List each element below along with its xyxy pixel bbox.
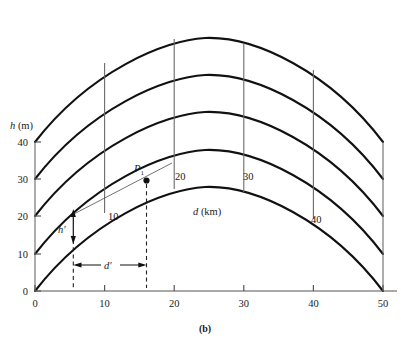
x-axis-title: d (km): [193, 206, 222, 218]
x-tick-label-50: 50: [378, 298, 389, 309]
inline-gridline-label-30: 30: [243, 171, 254, 182]
inline-gridline-label-40: 40: [311, 214, 322, 225]
x-ticks-group: [35, 285, 383, 291]
y-tick-label-40: 40: [18, 137, 29, 148]
y-tick-label-30: 30: [18, 174, 29, 185]
curves-group: [35, 38, 383, 291]
h-prime-arrowhead-down: [71, 236, 76, 244]
d-prime-label: d′: [104, 260, 112, 271]
x-tick-label-20: 20: [169, 298, 180, 309]
x-tick-label-0: 0: [32, 298, 37, 309]
point-P1-label-subscript: 1: [140, 169, 144, 177]
x-tick-label-10: 10: [99, 298, 110, 309]
y-tick-label-10: 10: [18, 249, 29, 260]
y-axis-title-unit: (m): [18, 120, 34, 132]
figure-caption: (b): [199, 323, 211, 335]
x-tick-label-40: 40: [308, 298, 319, 309]
x-tick-label-30: 30: [239, 298, 250, 309]
point-P1-label: P1: [133, 163, 144, 177]
x-tick-labels-group: 0 10 20 30 40 50: [32, 298, 388, 309]
figure-container: 0 10 20 30 40 50 0 10 20 30 40 h (m) d (…: [0, 0, 401, 341]
h-prime-label: h′: [58, 224, 66, 235]
y-axis-title: h (m): [10, 120, 34, 132]
y-tick-label-0: 0: [23, 286, 28, 297]
x-axis-title-unit: (km): [201, 206, 222, 218]
inline-gridline-label-20: 20: [175, 171, 186, 182]
gridlines-group: [35, 39, 383, 291]
y-ticks-group: [35, 142, 41, 291]
inline-gridline-label-10: 10: [108, 211, 119, 222]
d-prime-arrowhead-right: [138, 262, 146, 267]
secant-helper-line: [72, 163, 172, 215]
d-prime-arrowhead-left: [73, 262, 81, 267]
point-P1-marker: [143, 177, 149, 183]
y-tick-labels-group: 0 10 20 30 40: [18, 137, 29, 297]
trajectory-chart: 0 10 20 30 40 50 0 10 20 30 40 h (m) d (…: [0, 0, 401, 341]
y-tick-label-20: 20: [18, 211, 29, 222]
